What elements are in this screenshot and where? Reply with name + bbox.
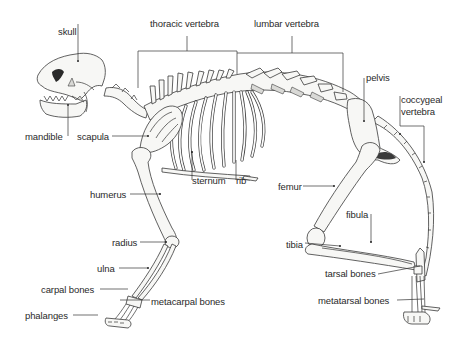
label-scapula: scapula (77, 131, 109, 142)
label-sternum: sternum (192, 175, 226, 186)
label-tarsal-bones: tarsal bones (325, 268, 376, 279)
label-pelvis: pelvis (366, 72, 390, 83)
label-coccygeal-vertebra-line2: vertebra (401, 106, 435, 117)
label-metatarsal-bones: metatarsal bones (318, 295, 389, 306)
label-thoracic-vertebra: thoracic vertebra (150, 18, 219, 29)
cat-skeleton-diagram: skull thoracic vertebra lumbar vertebra … (0, 0, 475, 341)
label-tibia: tibia (286, 239, 303, 250)
label-lumbar-vertebra: lumbar vertebra (254, 18, 319, 29)
label-rib: rib (236, 175, 246, 186)
label-phalanges: phalanges (25, 310, 68, 321)
spine (104, 68, 372, 122)
label-fibula: fibula (346, 209, 368, 220)
label-humerus: humerus (90, 189, 126, 200)
label-coccygeal-vertebra-line1: coccygeal (401, 94, 442, 105)
label-carpal-bones: carpal bones (41, 284, 94, 295)
skull-drawing (37, 53, 105, 117)
label-femur: femur (278, 181, 302, 192)
label-metacarpal-bones: metacarpal bones (151, 296, 225, 307)
label-radius: radius (112, 237, 137, 248)
label-mandible: mandible (25, 131, 63, 142)
label-skull: skull (58, 26, 77, 37)
label-ulna: ulna (97, 263, 115, 274)
